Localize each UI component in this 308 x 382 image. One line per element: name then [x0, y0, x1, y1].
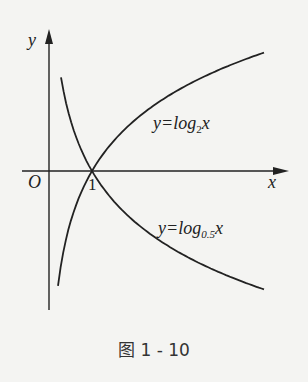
log-functions-figure: y x O 1 y=log2x y=log0.5x 图 1 - 10 [0, 0, 308, 382]
label-prefix: y=log [158, 218, 201, 238]
tick-label-1: 1 [88, 175, 97, 195]
plot-area [0, 0, 308, 382]
label-var: x [202, 113, 210, 133]
label-base: 0.5 [201, 228, 215, 240]
figure-caption: 图 1 - 10 [0, 336, 308, 361]
series-label-log2: y=log2x [153, 113, 210, 134]
label-base: 2 [196, 123, 202, 135]
origin-label: O [28, 172, 41, 193]
curve-log2 [58, 53, 264, 286]
series-label-log05: y=log0.5x [158, 218, 223, 239]
y-axis-arrow-icon [45, 29, 53, 44]
label-prefix: y=log [153, 113, 196, 133]
x-axis-label: x [268, 172, 276, 193]
y-axis-label: y [28, 30, 36, 51]
label-var: x [215, 218, 223, 238]
